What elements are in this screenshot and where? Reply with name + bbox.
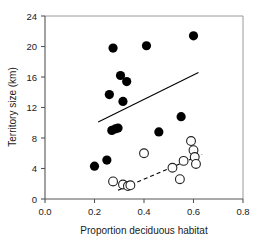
data-point <box>142 41 151 50</box>
y-tick-label-24: 24 <box>26 11 37 22</box>
data-point <box>118 97 127 106</box>
data-point <box>154 127 163 136</box>
data-point <box>168 163 177 172</box>
y-tick-label-0: 0 <box>32 194 37 205</box>
data-point <box>126 181 135 190</box>
data-point <box>192 160 201 169</box>
x-tick-label-1: 0.2 <box>88 206 101 217</box>
data-point <box>175 175 184 184</box>
data-point <box>105 90 114 99</box>
data-point <box>140 149 149 158</box>
open-circle-series <box>109 137 201 191</box>
data-point <box>108 43 117 52</box>
x-axis-title: Proportion deciduous habitat <box>80 225 208 236</box>
x-tick-label-0: 0.0 <box>38 206 51 217</box>
x-tick-label-4: 0.8 <box>236 206 249 217</box>
x-axis-tick-labels: 0.0 0.2 0.4 0.6 0.8 <box>38 206 249 217</box>
y-axis-ticks <box>41 16 45 199</box>
y-tick-label-8: 8 <box>32 133 37 144</box>
data-point <box>179 156 188 165</box>
y-axis-tick-labels: 0 4 8 12 16 20 24 <box>26 11 37 205</box>
x-tick-label-3: 0.6 <box>187 206 200 217</box>
plot-canvas: 0 4 8 12 16 20 24 0.0 0.2 0.4 0.6 0.8 Pr… <box>0 0 261 244</box>
data-point <box>109 177 118 186</box>
data-point <box>90 162 99 171</box>
data-point <box>122 77 131 86</box>
data-point <box>189 31 198 40</box>
data-point <box>113 123 122 132</box>
data-point <box>187 137 196 146</box>
y-tick-label-4: 4 <box>32 163 37 174</box>
y-tick-label-12: 12 <box>26 102 37 113</box>
data-point <box>177 112 186 121</box>
y-tick-label-16: 16 <box>26 72 37 83</box>
scatter-plot-figure: 0 4 8 12 16 20 24 0.0 0.2 0.4 0.6 0.8 Pr… <box>0 0 261 244</box>
data-point <box>102 156 111 165</box>
y-axis-title: Territory size (km) <box>7 67 18 146</box>
x-tick-label-2: 0.4 <box>137 206 150 217</box>
y-tick-label-20: 20 <box>26 41 37 52</box>
x-axis-ticks <box>45 199 243 203</box>
